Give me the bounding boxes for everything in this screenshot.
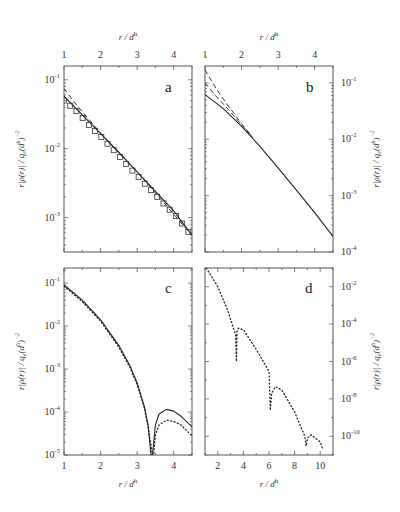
x-axis-label: r / dh [260, 477, 279, 489]
x-tick-label: 2 [215, 460, 220, 471]
figure-canvas: 1234r / dh10-110-210-3r|ρ(r)| / qe(dh)−2… [0, 0, 400, 512]
x-tick-label: 8 [292, 460, 297, 471]
series-dashed-1 [205, 70, 253, 137]
y-tick-label: 10-2 [45, 318, 60, 331]
x-tick-label: 3 [276, 49, 281, 60]
series-dotted [206, 268, 322, 449]
series-dashed [64, 88, 192, 235]
y-tick-label: 10-5 [45, 447, 60, 460]
series-solid [205, 95, 333, 237]
y-tick-label: 10-3 [45, 210, 60, 223]
x-tick-label: 3 [135, 460, 140, 471]
x-tick-label: 4 [241, 460, 246, 471]
y-tick-label: 10-2 [341, 131, 356, 144]
y-axis-label: r|ρ(r)| / qe(dh)−2 [369, 130, 382, 187]
x-tick-label: 4 [171, 49, 176, 60]
y-axis-label: r|ρ(r)| / qe(dh)−2 [14, 333, 27, 390]
x-tick-label: 3 [135, 49, 140, 60]
panel-c: 1234r / dh10-110-210-310-410-5r|ρ(r)| / … [14, 268, 192, 489]
x-tick-label: 6 [267, 460, 272, 471]
series-dashed-2 [205, 83, 253, 137]
x-tick-label: 2 [98, 49, 103, 60]
y-tick-label: 10-1 [45, 72, 60, 85]
panel-b: 1234r / dh10-110-210-310-4r|ρ(r)| / qe(d… [203, 30, 383, 257]
y-tick-label: 10-3 [341, 188, 356, 201]
x-tick-label: 2 [239, 49, 244, 60]
x-tick-label: 4 [312, 49, 317, 60]
y-axis-label: r|ρ(r)| / qe(dh)−2 [369, 333, 382, 390]
x-axis-label: r / dh [260, 30, 279, 42]
y-tick-label: 10-1 [341, 75, 356, 88]
x-tick-label: 1 [62, 460, 67, 471]
series-dotted [64, 286, 192, 455]
x-tick-label: 2 [98, 460, 103, 471]
panel-d: 246810r / dh10-210-410-610-810-10r|ρ(r)|… [205, 268, 382, 489]
y-tick-label: 10-3 [45, 361, 60, 374]
y-tick-label: 10-4 [341, 244, 357, 257]
plot-frame [205, 268, 333, 455]
x-axis-label: r / dh [119, 477, 138, 489]
series-solid [64, 96, 192, 235]
x-tick-label: 4 [171, 460, 176, 471]
plot-frame [64, 66, 192, 252]
y-tick-label: 10-1 [45, 275, 60, 288]
plot-frame [205, 66, 333, 252]
y-tick-label: 10-10 [341, 428, 360, 441]
y-tick-label: 10-8 [341, 391, 356, 404]
x-tick-label: 1 [203, 49, 208, 60]
y-tick-label: 10-6 [341, 354, 357, 367]
data-marker-square [80, 115, 85, 120]
y-axis-label: r|ρ(r)| / qe(dh)−2 [14, 130, 27, 187]
x-tick-label: 10 [315, 460, 325, 471]
panel-a: 1234r / dh10-110-210-3r|ρ(r)| / qe(dh)−2 [14, 30, 192, 252]
y-tick-label: 10-4 [341, 316, 357, 329]
y-tick-label: 10-2 [45, 141, 60, 154]
series-solid [64, 285, 192, 455]
x-axis-label: r / dh [119, 30, 138, 42]
y-tick-label: 10-2 [341, 279, 356, 292]
x-tick-label: 1 [62, 49, 67, 60]
y-tick-label: 10-4 [45, 404, 61, 417]
